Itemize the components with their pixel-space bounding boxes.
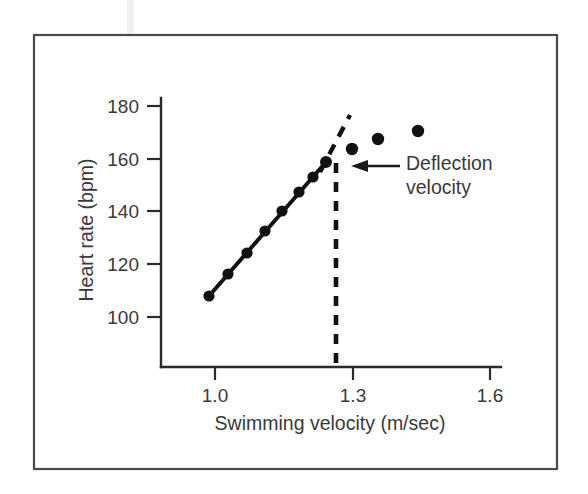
x-tick-label-1-6: 1.6 bbox=[477, 385, 503, 406]
data-point bbox=[222, 268, 233, 279]
data-point bbox=[320, 156, 332, 168]
figure-root: 180 160 140 120 100 1.0 1.3 1.6 Heart ra… bbox=[0, 0, 588, 494]
deflection-arrow bbox=[351, 160, 400, 172]
y-tick-label-120: 120 bbox=[107, 254, 139, 275]
y-axis-title: Heart rate (bpm) bbox=[75, 158, 97, 301]
y-tick-label-group: 180 160 140 120 100 bbox=[107, 96, 139, 328]
scan-artifact bbox=[127, 0, 134, 34]
data-point bbox=[372, 133, 384, 145]
data-point-group-post-deflection bbox=[346, 125, 424, 155]
data-point bbox=[412, 125, 424, 137]
x-tick-label-1-0: 1.0 bbox=[202, 385, 228, 406]
data-point bbox=[241, 247, 252, 258]
y-tick-label-140: 140 bbox=[107, 201, 139, 222]
arrow-head-icon bbox=[351, 160, 368, 172]
y-tick-label-100: 100 bbox=[107, 307, 139, 328]
data-point bbox=[293, 186, 304, 197]
y-tick-label-160: 160 bbox=[107, 149, 139, 170]
data-point bbox=[203, 290, 214, 301]
axis-group bbox=[147, 98, 501, 380]
chart-canvas: 180 160 140 120 100 1.0 1.3 1.6 Heart ra… bbox=[0, 0, 588, 494]
data-point bbox=[346, 143, 358, 155]
data-point bbox=[307, 171, 318, 182]
x-tick-label-group: 1.0 1.3 1.6 bbox=[202, 385, 503, 406]
x-tick-label-1-3: 1.3 bbox=[340, 385, 366, 406]
data-point bbox=[259, 225, 270, 236]
annotation-label-line-1: Deflection bbox=[406, 152, 493, 174]
annotation-label-line-2: velocity bbox=[406, 176, 471, 198]
x-axis-title: Swimming velocity (m/sec) bbox=[215, 412, 446, 434]
y-tick-label-180: 180 bbox=[107, 96, 139, 117]
data-point bbox=[276, 205, 287, 216]
